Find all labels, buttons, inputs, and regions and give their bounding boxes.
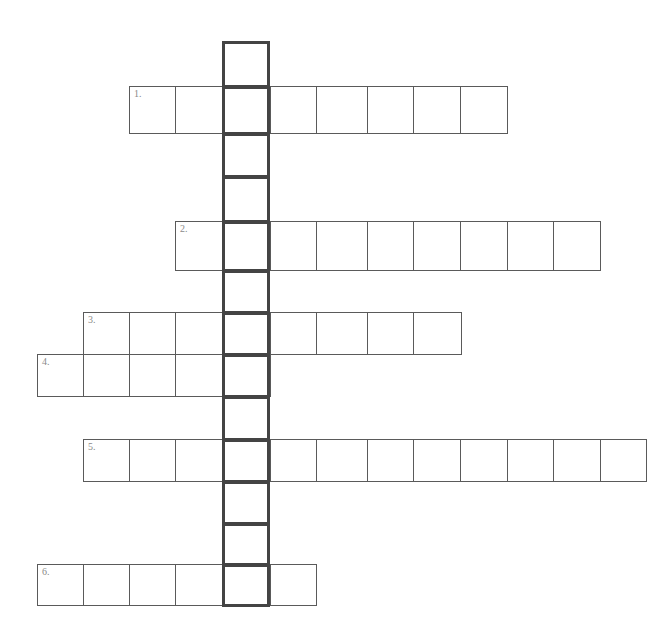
letter-cell[interactable] [316,312,368,355]
clue-number: 3. [88,315,96,325]
letter-cell[interactable]: 1. [129,86,176,134]
letter-cell[interactable] [460,221,508,271]
letter-cell[interactable] [367,312,414,355]
letter-cell[interactable] [367,86,414,134]
letter-cell[interactable] [553,221,601,271]
letter-cell[interactable] [367,439,414,482]
clue-number: 4. [42,357,50,367]
letter-cell[interactable] [129,564,176,606]
letter-cell[interactable] [367,221,414,271]
letter-cell[interactable] [600,439,647,482]
clue-number: 2. [180,224,188,234]
mystery-letter-cell[interactable] [222,396,270,441]
letter-cell[interactable] [83,564,130,606]
letter-cell[interactable] [129,439,176,482]
letter-cell[interactable]: 3. [83,312,130,355]
letter-cell[interactable] [507,221,554,271]
letter-cell[interactable] [175,354,223,397]
clue-number: 5. [88,442,96,452]
mystery-letter-cell[interactable] [222,354,270,398]
clue-number: 6. [42,567,50,577]
mystery-letter-cell[interactable] [222,86,270,135]
clue-number: 1. [134,89,142,99]
mystery-letter-cell[interactable] [222,439,270,483]
letter-cell[interactable] [460,86,508,134]
letter-cell[interactable]: 2. [175,221,223,271]
letter-cell[interactable]: 5. [83,439,130,482]
letter-cell[interactable] [413,439,461,482]
mystery-letter-cell[interactable] [222,133,270,178]
letter-cell[interactable] [413,221,461,271]
letter-cell[interactable] [507,439,554,482]
mystery-letter-cell[interactable] [222,41,270,88]
letter-cell[interactable] [83,354,130,397]
letter-cell[interactable] [316,86,368,134]
mystery-letter-cell[interactable] [222,481,270,525]
letter-cell[interactable] [413,312,462,355]
mystery-letter-cell[interactable] [222,312,270,356]
letter-cell[interactable] [129,312,176,355]
letter-cell[interactable] [316,221,368,271]
letter-cell[interactable] [316,439,368,482]
letter-cell[interactable] [175,439,223,482]
letter-cell[interactable] [270,86,317,134]
letter-cell[interactable] [175,312,223,355]
mystery-letter-cell[interactable] [222,221,270,272]
letter-cell[interactable] [460,439,508,482]
mystery-letter-cell[interactable] [222,176,270,223]
letter-cell[interactable] [553,439,601,482]
letter-cell[interactable] [270,564,317,606]
mystery-letter-cell[interactable] [222,270,270,314]
letter-cell[interactable] [175,86,223,134]
crossword-grid: 1.2.3.4.5.6. [0,0,668,636]
letter-cell[interactable] [270,439,317,482]
letter-cell[interactable] [270,312,317,355]
mystery-letter-cell[interactable] [222,523,270,566]
letter-cell[interactable]: 6. [37,564,84,606]
letter-cell[interactable] [175,564,223,606]
letter-cell[interactable] [129,354,176,397]
letter-cell[interactable]: 4. [37,354,84,397]
mystery-letter-cell[interactable] [222,564,270,607]
letter-cell[interactable] [413,86,461,134]
letter-cell[interactable] [270,221,317,271]
